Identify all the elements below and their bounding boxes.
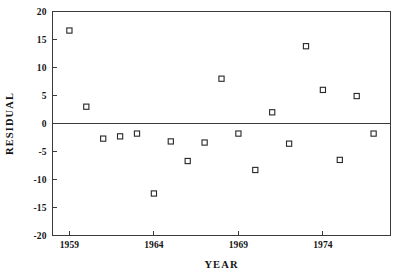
plot-canvas: 20151050-5-10-15-20 1959196419691974 RES… bbox=[0, 0, 405, 280]
data-point-1967 bbox=[202, 140, 207, 145]
y-tick-label--10: -10 bbox=[34, 175, 47, 185]
data-point-1974 bbox=[320, 87, 325, 92]
y-tick-label--15: -15 bbox=[34, 203, 47, 213]
y-axis-title: RESIDUAL bbox=[4, 92, 15, 155]
y-tick-label--5: -5 bbox=[38, 147, 46, 157]
data-point-1965 bbox=[168, 139, 173, 144]
y-tick-label-10: 10 bbox=[37, 63, 47, 73]
data-point-1969 bbox=[236, 131, 241, 136]
data-point-1959 bbox=[67, 28, 72, 33]
data-point-1963 bbox=[134, 131, 139, 136]
x-tick-label-1969: 1969 bbox=[229, 240, 249, 250]
x-tick-label-1974: 1974 bbox=[313, 240, 333, 250]
data-point-1968 bbox=[219, 76, 224, 81]
data-point-1962 bbox=[118, 134, 123, 139]
data-point-1961 bbox=[101, 136, 106, 141]
data-point-1972 bbox=[287, 141, 292, 146]
data-point-1966 bbox=[185, 158, 190, 163]
x-axis-ticks bbox=[69, 231, 323, 236]
data-point-markers bbox=[67, 28, 376, 196]
x-axis-tick-labels: 1959196419691974 bbox=[60, 240, 333, 250]
data-point-1964 bbox=[151, 191, 156, 196]
y-tick-label-0: 0 bbox=[42, 119, 47, 129]
x-tick-label-1959: 1959 bbox=[60, 240, 80, 250]
residual-vs-year-scatter-chart: 20151050-5-10-15-20 1959196419691974 RES… bbox=[0, 0, 405, 280]
x-tick-label-1964: 1964 bbox=[144, 240, 164, 250]
data-point-1970 bbox=[253, 167, 258, 172]
data-point-1971 bbox=[270, 110, 275, 115]
y-tick-label-20: 20 bbox=[37, 7, 47, 17]
data-point-1960 bbox=[84, 104, 89, 109]
y-tick-label--20: -20 bbox=[34, 231, 47, 241]
data-point-1977 bbox=[371, 131, 376, 136]
y-tick-label-15: 15 bbox=[37, 35, 47, 45]
y-tick-label-5: 5 bbox=[42, 91, 47, 101]
data-point-1973 bbox=[303, 44, 308, 49]
x-axis-title: YEAR bbox=[204, 259, 238, 270]
data-point-1975 bbox=[337, 157, 342, 162]
y-axis-tick-labels: 20151050-5-10-15-20 bbox=[34, 7, 47, 241]
data-point-1976 bbox=[354, 93, 359, 98]
